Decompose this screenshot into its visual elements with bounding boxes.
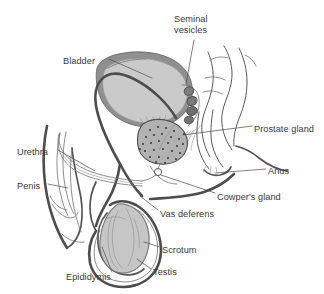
corpus-spongiosum-right xyxy=(63,132,74,214)
label-prostate-gland: Prostate gland xyxy=(254,124,314,134)
label-cowpers-gland: Cowper's gland xyxy=(217,192,281,202)
label-epididymis: Epididymis xyxy=(66,272,111,282)
cowpers-gland-body xyxy=(154,168,161,175)
leader-anus xyxy=(215,169,266,173)
glans-contour xyxy=(52,204,78,218)
label-testis: Testis xyxy=(153,267,177,277)
anatomy-diagram: Seminal vesicles Bladder Prostate gland … xyxy=(0,0,324,294)
cowpers-gland-group xyxy=(142,164,177,184)
bladder-group xyxy=(96,52,192,134)
label-bladder: Bladder xyxy=(63,56,95,66)
crease-line-2 xyxy=(205,77,225,80)
seminal-vesicle-lobe-4 xyxy=(184,116,194,125)
label-urethra: Urethra xyxy=(17,147,49,157)
crease-line-3 xyxy=(203,91,222,94)
label-vas-deferens: Vas deferens xyxy=(160,209,214,219)
urethra-upper-wall xyxy=(59,133,142,181)
label-anus: Anus xyxy=(268,166,289,176)
label-seminal-vesicles-line2: vesicles xyxy=(174,25,207,35)
leader-cowpers-gland xyxy=(161,175,215,193)
sacrum-outline xyxy=(222,46,232,150)
hip-curve-upper xyxy=(234,48,247,146)
bulb-outline xyxy=(150,166,177,184)
anal-fold-2 xyxy=(210,167,211,173)
male-reproductive-system-illustration: Seminal vesicles Bladder Prostate gland … xyxy=(0,0,324,294)
penis-base-fold xyxy=(62,234,84,242)
spermatic-cord xyxy=(90,182,96,231)
rectum-posterior-wall xyxy=(211,110,223,167)
rectum-group xyxy=(197,110,231,175)
cowpers-duct xyxy=(142,175,156,181)
prostate-body xyxy=(137,119,187,164)
anal-fold-3 xyxy=(216,167,217,173)
label-seminal-vesicles-line1: Seminal xyxy=(174,14,208,24)
label-scrotum: Scrotum xyxy=(162,245,197,255)
label-penis: Penis xyxy=(17,181,41,191)
leader-urethra xyxy=(58,150,95,171)
crease-line-1 xyxy=(210,57,228,60)
prostate-group xyxy=(137,119,187,164)
crease-line-4 xyxy=(245,55,256,66)
